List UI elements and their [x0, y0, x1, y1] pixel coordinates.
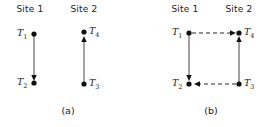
panel-a-node-t1-dot [31, 31, 36, 36]
panel-b-node-t4-dot [236, 30, 241, 35]
panel-a-arrowhead-down-t2 [31, 75, 36, 81]
panel-a-node-t2-dot [31, 80, 36, 85]
panel-b-caption: (b) [191, 105, 231, 116]
panel-b-node-label-t2: T2 [172, 77, 182, 91]
panel-a-node-label-t2-sub: 2 [23, 82, 27, 90]
panel-b-node-t3-dot [236, 81, 241, 86]
panel-b: Site 1 Site 2 T1 T2 T4 T3 (b) [139, 0, 277, 127]
wait-for-graph-figure: Site 1 Site 2 T1 T2 T4 T3 (a) Site 1 Sit… [0, 0, 277, 127]
panel-a-node-label-t4: T4 [89, 25, 99, 39]
panel-a-node-label-t2: T2 [17, 76, 27, 90]
panel-b-node-label-t1: T1 [172, 26, 182, 40]
panel-b-node-label-t3: T3 [244, 77, 254, 91]
panel-b-node-label-t3-sub: 3 [250, 83, 254, 91]
panel-a-node-label-t4-sub: 4 [95, 31, 99, 39]
panel-b-node-label-t1-sub: 1 [178, 32, 182, 40]
panel-b-node-label-t4-sub: 4 [250, 32, 254, 40]
panel-a-node-t4-dot [81, 29, 86, 34]
panel-b-arrowhead-up-t4 [236, 36, 241, 42]
panel-a: Site 1 Site 2 T1 T2 T4 T3 (a) [0, 0, 138, 127]
panel-b-node-t2-dot [186, 81, 191, 86]
panel-a-node-label-t3-sub: 3 [95, 83, 99, 91]
panel-a-node-t3-dot [81, 81, 86, 86]
panel-a-caption: (a) [48, 105, 88, 116]
panel-b-arrowhead-down-t2 [186, 75, 191, 81]
panel-b-node-label-t4: T4 [244, 26, 254, 40]
panel-b-node-t1-dot [186, 30, 191, 35]
panel-a-node-label-t3: T3 [89, 77, 99, 91]
panel-b-node-label-t2-sub: 2 [178, 83, 182, 91]
panel-b-arrowhead-right-t4 [230, 30, 236, 35]
panel-a-arrowhead-up-t4 [81, 36, 86, 42]
panel-a-node-label-t1-sub: 1 [23, 33, 27, 41]
panel-b-arrowhead-left-t2 [194, 81, 200, 86]
panel-a-node-label-t1: T1 [17, 27, 27, 41]
